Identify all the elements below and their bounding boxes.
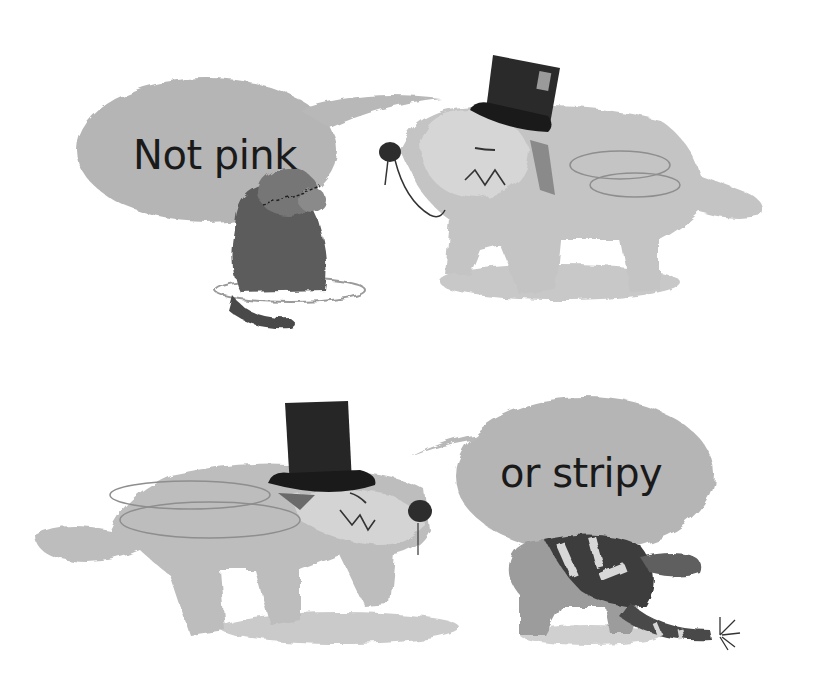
caption-or-stripy: or stripy	[500, 450, 662, 496]
large-dog-top-hat-bottom	[35, 464, 460, 644]
large-dog-top-hat	[400, 106, 763, 300]
caption-not-pink: Not pink	[133, 132, 297, 178]
top-panel-artwork	[0, 0, 823, 345]
top-panel: Not pink	[0, 0, 823, 345]
sparkle-icon	[720, 617, 740, 650]
striped-puppy	[509, 535, 712, 645]
bottom-panel-artwork	[0, 345, 823, 690]
bottom-panel: or stripy	[0, 345, 823, 690]
